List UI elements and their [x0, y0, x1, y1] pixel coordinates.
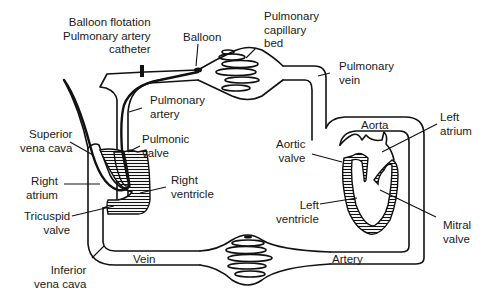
label-balloon: Balloon [183, 31, 221, 45]
label-mitral-valve: Mitral valve [443, 219, 471, 246]
label-tricuspid-valve: Tricuspid valve [24, 210, 70, 237]
label-inferior-vena-cava: Inferior vena cava [34, 264, 86, 291]
label-right-ventricle: Right ventricle [171, 174, 214, 201]
label-pulmonary-vein: Pulmonary vein [339, 60, 394, 87]
label-right-atrium: Right atrium [26, 175, 58, 202]
label-left-ventricle: Left ventricle [276, 199, 319, 226]
label-pulmonic-valve: Pulmonic valve [142, 133, 189, 160]
left-heart [340, 132, 398, 234]
label-catheter: Balloon flotation Pulmonary artery cathe… [63, 16, 151, 57]
label-superior-vena-cava: Superior vena cava [20, 128, 72, 155]
label-vein: Vein [133, 253, 155, 267]
label-aortic-valve: Aortic valve [276, 138, 305, 165]
label-pulmonary-capillary-bed: Pulmonary capillary bed [264, 10, 319, 51]
pulmonary-capillary-bed [198, 47, 283, 99]
balloon-marker [194, 68, 202, 73]
label-artery: Artery [332, 253, 363, 267]
label-aorta: Aorta [361, 119, 389, 133]
label-pulmonary-artery: Pulmonary artery [150, 94, 205, 121]
systemic-capillary-bed [200, 235, 330, 285]
label-left-atrium: Left atrium [440, 111, 472, 138]
